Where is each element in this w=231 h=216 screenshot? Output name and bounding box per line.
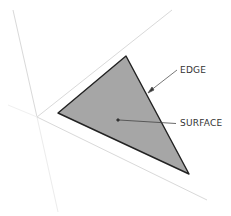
triangle-surface: [58, 56, 189, 174]
axis-down: [37, 117, 58, 212]
edge-label: EDGE: [180, 66, 206, 75]
surface-label: SURFACE: [180, 119, 222, 128]
axis-up: [13, 10, 37, 117]
edge-leader: [148, 70, 177, 93]
axis-left: [8, 105, 37, 117]
edge-arrowhead-icon: [148, 87, 154, 93]
diagram-canvas: [0, 0, 231, 216]
surface-dot-icon: [117, 119, 120, 122]
